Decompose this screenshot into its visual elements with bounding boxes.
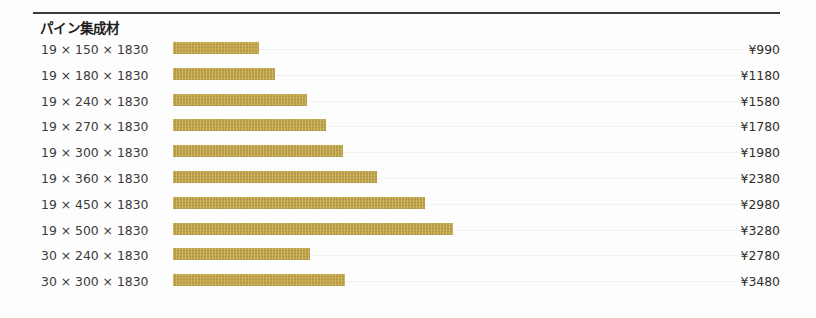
bar-track	[173, 93, 780, 111]
table-row: 19 × 300 × 1830¥1980	[0, 144, 816, 170]
price-bar	[173, 94, 307, 106]
bar-track	[173, 247, 780, 265]
price-bar	[173, 274, 345, 286]
table-row: 19 × 500 × 1830¥3280	[0, 222, 816, 248]
price-bar	[173, 223, 453, 235]
table-row: 19 × 450 × 1830¥2980	[0, 196, 816, 222]
price-bar	[173, 197, 425, 209]
row-size-label: 19 × 360 × 1830	[41, 170, 165, 188]
page-title: パイン集成材	[40, 20, 120, 38]
row-size-label: 19 × 240 × 1830	[41, 93, 165, 111]
table-row: 19 × 240 × 1830¥1580	[0, 93, 816, 119]
header-rule	[33, 12, 780, 14]
bar-track	[173, 273, 780, 291]
row-price-value: ¥3480	[741, 273, 780, 291]
row-price-value: ¥1780	[741, 118, 780, 136]
row-size-label: 19 × 180 × 1830	[41, 67, 165, 85]
table-row: 19 × 270 × 1830¥1780	[0, 118, 816, 144]
bar-track	[173, 67, 780, 85]
row-size-label: 19 × 450 × 1830	[41, 196, 165, 214]
bar-track	[173, 41, 780, 59]
bar-chart-rows: 19 × 150 × 1830¥99019 × 180 × 1830¥11801…	[0, 41, 816, 299]
row-price-value: ¥1180	[741, 67, 780, 85]
row-size-label: 19 × 300 × 1830	[41, 144, 165, 162]
row-size-label: 19 × 500 × 1830	[41, 222, 165, 240]
bar-track	[173, 170, 780, 188]
bar-track	[173, 144, 780, 162]
price-bar	[173, 42, 259, 54]
row-size-label: 30 × 300 × 1830	[41, 273, 165, 291]
table-row: 30 × 300 × 1830¥3480	[0, 273, 816, 299]
row-price-value: ¥2980	[741, 196, 780, 214]
row-price-value: ¥3280	[741, 222, 780, 240]
bar-track	[173, 118, 780, 136]
row-size-label: 30 × 240 × 1830	[41, 247, 165, 265]
price-bar	[173, 119, 326, 131]
row-size-label: 19 × 150 × 1830	[41, 41, 165, 59]
row-price-value: ¥2380	[741, 170, 780, 188]
price-bar	[173, 68, 275, 80]
table-row: 30 × 240 × 1830¥2780	[0, 247, 816, 273]
price-chart-page: パイン集成材 19 × 150 × 1830¥99019 × 180 × 183…	[0, 0, 816, 318]
table-row: 19 × 360 × 1830¥2380	[0, 170, 816, 196]
bar-track	[173, 196, 780, 214]
table-row: 19 × 180 × 1830¥1180	[0, 67, 816, 93]
table-row: 19 × 150 × 1830¥990	[0, 41, 816, 67]
row-size-label: 19 × 270 × 1830	[41, 118, 165, 136]
row-price-value: ¥2780	[741, 247, 780, 265]
row-price-value: ¥1580	[741, 93, 780, 111]
row-price-value: ¥990	[748, 41, 780, 59]
price-bar	[173, 171, 377, 183]
bar-track	[173, 222, 780, 240]
price-bar	[173, 145, 343, 157]
price-bar	[173, 248, 310, 260]
row-price-value: ¥1980	[741, 144, 780, 162]
leader-line	[173, 49, 780, 51]
